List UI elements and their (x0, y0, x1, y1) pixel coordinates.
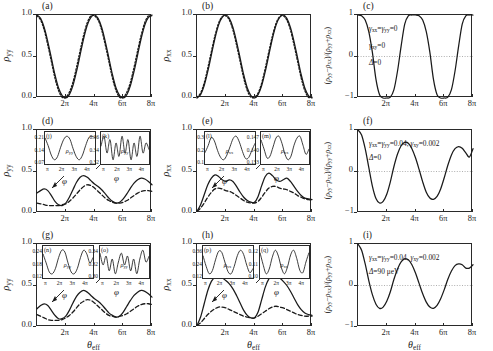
xtick-b-2: 6π (271, 99, 293, 108)
ytick-mark (33, 14, 36, 15)
annotation-i-1: Δ=90 μeV (369, 267, 399, 276)
xtick-i-0: 2π (375, 328, 397, 337)
series-b-dotted (197, 16, 312, 98)
series-a-dotted (37, 15, 152, 98)
xtick-mark (415, 94, 416, 97)
ytick-d-1: 0.5 (12, 165, 32, 174)
xtick-i-2: 6π (432, 328, 454, 337)
inset-xtick-k-3: 4π (139, 166, 144, 172)
inset-curve-label-m: ρxx (281, 147, 288, 155)
xtick-mark (282, 323, 283, 326)
inset-curve-label-k: ρyy (121, 147, 128, 155)
ylabel-d: ρyy (0, 129, 13, 212)
inset-ytick-n-2: 0.12 (26, 273, 42, 279)
ytick-mark (33, 212, 36, 213)
ytick-b-1: 0.5 (172, 50, 192, 59)
inset-xtick-n-3: 4π (82, 280, 87, 286)
phi-arrow-g-0 (48, 286, 78, 312)
xtick-mark (443, 94, 444, 97)
panel-label-f: (f) (363, 116, 373, 126)
inset-curve-label-o: ρyy (120, 261, 127, 269)
ytick-mark (193, 212, 196, 213)
inset-ytick-l-1: 0.2 (188, 147, 204, 153)
xtick-mark (94, 209, 95, 212)
annotation-i-0: γxx=γyy=0.04, γxy=0.002 (369, 253, 440, 262)
xtick-mark (65, 323, 66, 326)
inset-label-l: (l) (206, 132, 212, 139)
panel-label-c: (c) (363, 1, 374, 11)
inset-ytick-o-2: 0.30 (82, 273, 98, 279)
ytick-c-1: 0 (345, 50, 353, 59)
ytick-mark (33, 97, 36, 98)
ytick-e-2: 1.0 (172, 123, 192, 132)
xtick-mark (225, 94, 226, 97)
curves-b (197, 15, 312, 98)
xlabel-i: θeff (357, 339, 472, 351)
ytick-mark (193, 243, 196, 244)
inset-xtick-q-0: π (261, 280, 264, 286)
annotation-f-0: γxx=γyy=0.04, γxy=0.002 (369, 139, 440, 148)
xtick-g-2: 6π (111, 328, 133, 337)
inset-label-m: (m) (262, 132, 271, 139)
ytick-mark (33, 285, 36, 286)
inset-xtick-m-3: 4π (299, 166, 304, 172)
ylabel-a: ρyy (0, 14, 13, 97)
inset-xtick-k-1: 2π (114, 166, 119, 172)
xtick-mark (311, 94, 312, 97)
ytick-f-1: 0 (345, 165, 353, 174)
phi-arrow-e-0 (208, 172, 238, 198)
xtick-mark (311, 209, 312, 212)
inset-xtick-n-2: 3π (70, 280, 75, 286)
xtick-i-3: 8π (461, 328, 483, 337)
panel-label-b: (b) (202, 1, 213, 11)
ytick-c-0: −1 (345, 91, 353, 100)
xtick-a-1: 4π (83, 99, 105, 108)
xtick-e-3: 8π (300, 214, 322, 223)
xtick-mark (94, 323, 95, 326)
ylabel-i: (ρyy−ρxx)/(ρyy+ρxx) (323, 243, 332, 326)
inset-ytick-k-0: 0.36 (83, 134, 99, 140)
xtick-mark (386, 323, 387, 326)
xtick-g-3: 8π (140, 328, 162, 337)
xtick-g-0: 2π (54, 328, 76, 337)
inset-xtick-l-1: 2π (219, 166, 224, 172)
curves-a (37, 15, 152, 98)
inset-ytick-p-2: 0.12 (186, 273, 202, 279)
panel-label-i: (i) (363, 230, 372, 240)
inset-ytick-o-0: 0.34 (82, 248, 98, 254)
inset-xtick-n-1: 2π (57, 280, 62, 286)
inset-ytick-l-0: 0.3 (188, 134, 204, 140)
xtick-a-3: 8π (140, 99, 162, 108)
xtick-c-2: 6π (432, 99, 454, 108)
xtick-mark (311, 323, 312, 326)
xtick-mark (122, 94, 123, 97)
ytick-f-2: 1 (345, 123, 353, 132)
phi-arrow-d-0 (48, 172, 78, 198)
inset-label-p: (p) (204, 246, 211, 253)
xtick-e-2: 6π (271, 214, 293, 223)
ytick-mark (33, 129, 36, 130)
xtick-mark (472, 323, 473, 326)
inset-xtick-j-2: 3π (72, 166, 77, 172)
inset-label-o: (o) (101, 246, 108, 253)
inset-xtick-p-3: 4π (242, 280, 247, 286)
inset-ytick-m-0: 0.147 (243, 134, 259, 140)
ytick-i-2: 1 (345, 237, 353, 246)
inset-ytick-q-1: 0.11 (242, 261, 258, 267)
ytick-mark (33, 56, 36, 57)
xtick-c-0: 2π (375, 99, 397, 108)
xtick-f-2: 6π (432, 214, 454, 223)
ytick-d-2: 1.0 (12, 123, 32, 132)
ytick-b-2: 1.0 (172, 8, 192, 17)
inset-label-q: (q) (261, 246, 268, 253)
xtick-mark (415, 209, 416, 212)
ytick-mark (354, 326, 357, 327)
ytick-h-2: 1.0 (172, 237, 192, 246)
annotation-c-0: γxx=γyy=0 (369, 24, 398, 33)
ytick-mark (33, 326, 36, 327)
ylabel-c: (ρyy−ρxx)/(ρyy+ρxx) (323, 14, 332, 97)
inset-curve-label-j: ρyy (66, 147, 73, 155)
xtick-d-1: 4π (83, 214, 105, 223)
panel-label-h: (h) (202, 230, 213, 240)
series-b-solid (197, 15, 312, 98)
